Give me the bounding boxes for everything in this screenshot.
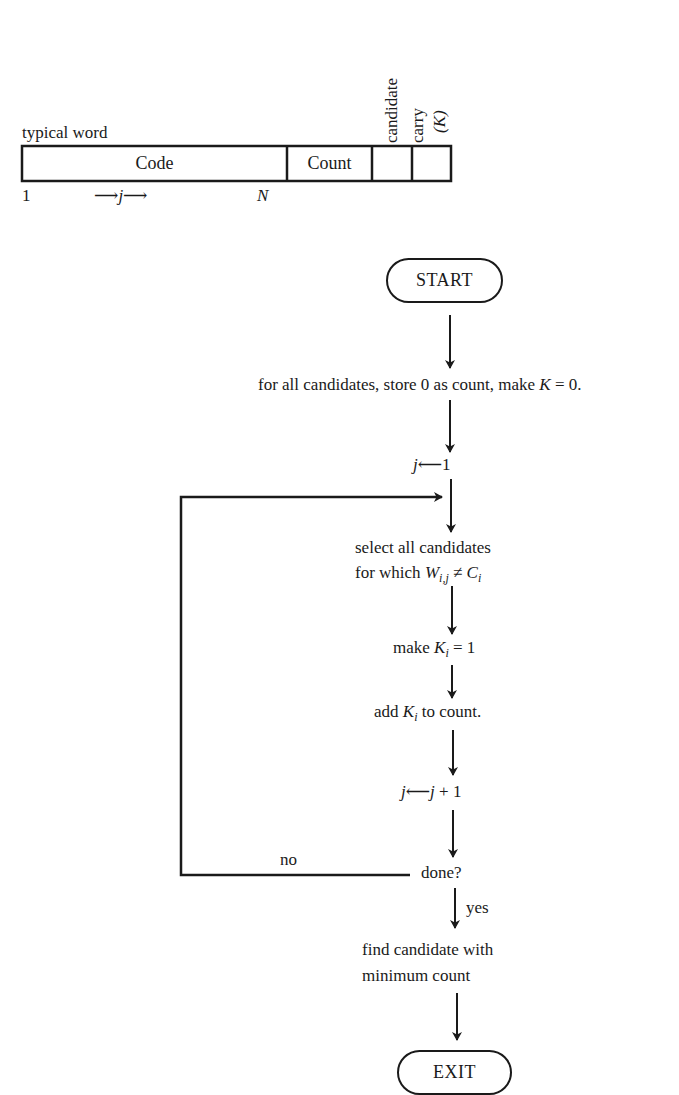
exit-label: EXIT: [433, 1062, 476, 1083]
exit-terminator: EXIT: [397, 1050, 512, 1095]
step-j-inc: j⟵j + 1: [401, 782, 461, 802]
index-end: N: [257, 186, 268, 206]
add-k-prefix: add: [374, 702, 403, 721]
select-prefix: for which: [355, 563, 425, 582]
j-inc-rhs-rest: + 1: [435, 782, 462, 801]
select-neq: ≠: [449, 563, 467, 582]
start-label: START: [416, 270, 473, 291]
j-init-arrow: ⟵: [418, 455, 442, 474]
step-find: find candidate with minimum count: [362, 937, 493, 989]
field-count: Count: [287, 146, 372, 181]
step-init-var: K: [539, 375, 550, 394]
field-candidate: [372, 146, 412, 181]
j-inc-arrow: ⟵: [406, 782, 430, 801]
select-c: C: [467, 563, 478, 582]
step-j-init: j⟵1: [413, 455, 451, 475]
decision-done: done?: [421, 863, 462, 883]
select-w: W: [425, 563, 439, 582]
find-line1: find candidate with: [362, 937, 493, 963]
step-init-rest: = 0.: [551, 375, 582, 394]
yes-label: yes: [466, 898, 489, 918]
add-k-rest: to count.: [417, 702, 481, 721]
step-init: for all candidates, store 0 as count, ma…: [258, 375, 658, 395]
step-add-k: add Ki to count.: [374, 702, 481, 727]
select-line1: select all candidates: [355, 535, 491, 560]
field-carry: [412, 146, 451, 181]
select-w-sub: i,j: [439, 571, 449, 585]
column-label-carry: carry: [409, 108, 427, 143]
select-c-sub: i: [478, 571, 481, 585]
field-code: Code: [22, 146, 287, 181]
select-line2: for which Wi,j ≠ Ci: [355, 560, 491, 591]
step-select: select all candidates for which Wi,j ≠ C…: [355, 535, 491, 591]
make-k-prefix: make: [393, 638, 434, 657]
add-k-var: K: [403, 702, 414, 721]
word-title: typical word: [22, 123, 107, 143]
find-line2: minimum count: [362, 963, 493, 989]
column-label-candidate: candidate: [383, 78, 401, 143]
j-init-rhs: 1: [442, 455, 451, 474]
start-terminator: START: [386, 258, 503, 303]
column-label-carry-symbol: (K): [431, 110, 449, 133]
index-arrow-left: ⟶: [94, 186, 118, 205]
step-init-text: for all candidates, store 0 as count, ma…: [258, 375, 539, 394]
index-range: ⟶j⟶: [94, 186, 147, 206]
index-start: 1: [22, 186, 31, 206]
index-arrow-right: ⟶: [123, 186, 147, 205]
no-label: no: [280, 850, 297, 870]
step-make-k: make Ki = 1: [393, 638, 475, 663]
make-k-rest: = 1: [449, 638, 476, 657]
make-k-var: K: [434, 638, 445, 657]
